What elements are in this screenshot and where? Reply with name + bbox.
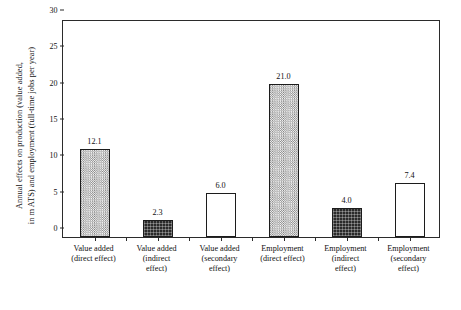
y-axis-tick-mark [60,228,64,229]
y-axis-tick: 30 [50,6,64,15]
plot-area: 05101520253012.12.36.021.04.07.4 [62,20,440,238]
bar-chart-figure: Annual effects on production (value adde… [0,0,461,310]
x-axis-category-label-line: (secondary [372,254,446,264]
bar-value-label: 12.1 [87,137,101,146]
y-axis-label: Annual effects on production (value adde… [0,0,52,270]
bar [80,149,110,237]
x-axis-tick-mark [378,237,379,241]
bar [332,208,362,237]
x-axis-category-label: Employment(secondaryeffect) [372,244,446,275]
x-axis-category-label-line: effect) [372,264,446,274]
y-axis-tick-mark [60,155,64,156]
x-axis-tick-mark [315,237,316,241]
y-axis-tick-mark [60,82,64,83]
y-axis-tick-mark [60,191,64,192]
bar [206,193,236,237]
y-axis-tick: 0 [54,224,64,233]
x-axis-tick-mark [347,237,348,241]
bar-value-label: 4.0 [341,196,351,205]
y-axis-tick: 15 [50,115,64,124]
x-axis-category-label-line: effect) [183,264,257,274]
bar-value-label: 7.4 [404,171,414,180]
x-axis-tick-mark [221,237,222,241]
bar-value-label: 2.3 [152,208,162,217]
x-axis-tick-mark [252,237,253,241]
x-axis-tick-mark [126,237,127,241]
y-axis-tick-mark [60,46,64,47]
y-axis-tick: 10 [50,151,64,160]
bar [395,183,425,237]
x-axis-category-label-line: Employment [372,244,446,254]
y-axis-tick-label: 20 [50,78,61,87]
y-axis-label-line-1: Annual effects on production (value adde… [15,46,27,223]
bar-value-label: 21.0 [276,72,290,81]
y-axis-tick: 25 [50,42,64,51]
y-axis-tick-mark [60,119,64,120]
bar [143,220,173,237]
y-axis-tick: 5 [54,187,64,196]
x-axis-tick-mark [284,237,285,241]
y-axis-tick-label: 15 [50,115,61,124]
x-axis-tick-mark [410,237,411,241]
y-axis-label-line-2: in m ATS) and employment (full-time jobs… [26,46,38,223]
x-axis-tick-mark [158,237,159,241]
y-axis-tick-label: 25 [50,42,61,51]
y-axis-tick-mark [60,10,64,11]
y-axis-tick-label: 10 [50,151,61,160]
x-axis-tick-mark [189,237,190,241]
bar [269,84,299,237]
y-axis-tick-label: 30 [50,6,61,15]
plot-inner: 05101520253012.12.36.021.04.07.4 [63,21,439,237]
bar-value-label: 6.0 [215,181,225,190]
x-axis-tick-mark [95,237,96,241]
y-axis-tick: 20 [50,78,64,87]
